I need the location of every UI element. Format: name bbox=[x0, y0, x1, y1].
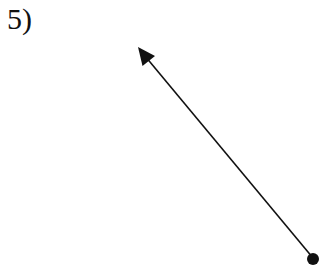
ray-diagram bbox=[0, 0, 329, 265]
arrowhead-icon bbox=[138, 47, 155, 66]
ray-line bbox=[145, 56, 313, 258]
endpoint-dot bbox=[307, 253, 319, 265]
